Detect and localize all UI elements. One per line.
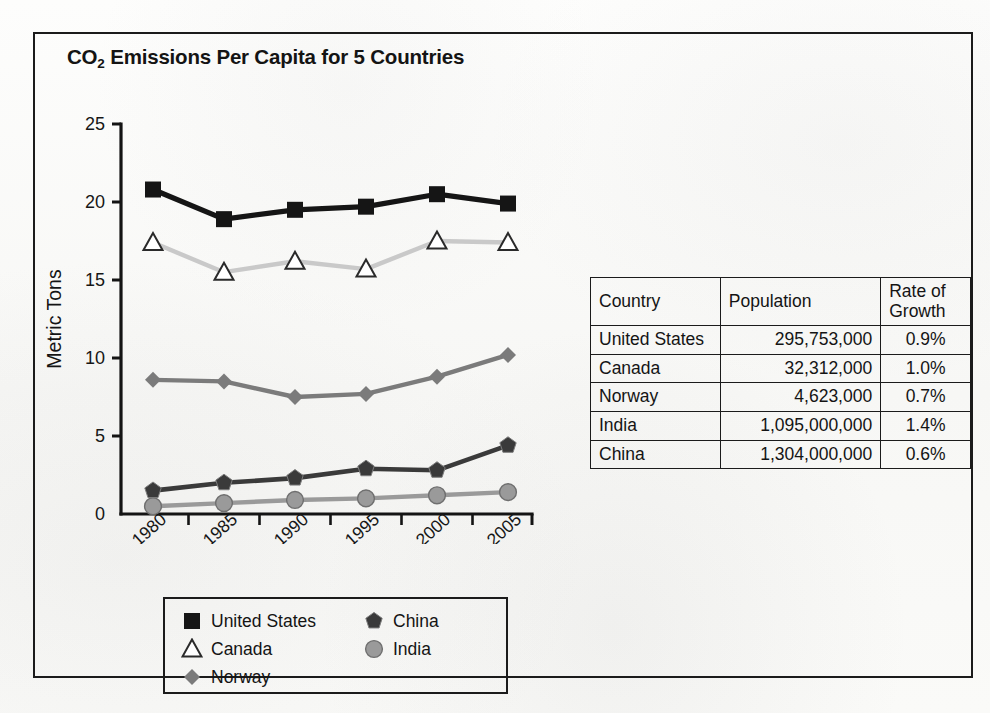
cell-rate-of-growth: 0.9%	[881, 326, 971, 355]
triangle-marker-icon	[179, 638, 205, 660]
cell-rate-of-growth: 1.0%	[881, 354, 971, 383]
data-point-marker	[500, 347, 516, 363]
cell-country: Canada	[591, 354, 721, 383]
column-header-population: Population	[720, 278, 880, 326]
data-point-marker	[500, 437, 516, 453]
legend-item-label: China	[393, 611, 439, 632]
chart-series-group	[144, 182, 518, 515]
pentagon-marker-icon	[361, 610, 387, 632]
series-canada	[144, 232, 518, 280]
legend-item[interactable]: Canada	[179, 636, 316, 662]
circle-marker-icon	[361, 638, 387, 660]
column-header-rate-of-growth: Rate of Growth	[881, 278, 971, 326]
legend-column-left: United StatesCanadaNorway	[179, 608, 316, 692]
cell-population: 32,312,000	[720, 354, 880, 383]
data-point-marker	[145, 372, 161, 388]
cell-country: India	[591, 411, 721, 440]
y-tick-label: 15	[85, 270, 105, 290]
diamond-marker-icon	[179, 666, 205, 688]
legend-item-label: Norway	[211, 667, 270, 688]
data-point-marker	[358, 490, 375, 507]
data-point-marker	[216, 211, 232, 227]
data-point-marker	[500, 196, 516, 212]
y-tick-label: 10	[85, 348, 105, 368]
cell-population: 1,095,000,000	[720, 411, 880, 440]
data-point-marker	[144, 233, 163, 250]
cell-population: 295,753,000	[720, 326, 880, 355]
y-tick-label: 25	[85, 114, 105, 134]
cell-rate-of-growth: 0.7%	[881, 383, 971, 412]
table-body: United States295,753,0000.9%Canada32,312…	[591, 326, 971, 469]
data-point-marker	[429, 487, 446, 504]
chart-legend: United StatesCanadaNorway ChinaIndia	[163, 597, 508, 694]
data-point-marker	[429, 462, 445, 478]
data-point-marker	[429, 369, 445, 385]
legend-item[interactable]: United States	[179, 608, 316, 634]
series-china	[145, 437, 516, 498]
table-row: India1,095,000,0001.4%	[591, 411, 971, 440]
data-point-marker	[183, 640, 202, 657]
series-united-states	[145, 182, 516, 228]
data-point-marker	[358, 199, 374, 215]
data-point-marker	[500, 484, 517, 501]
legend-item[interactable]: India	[361, 636, 439, 662]
legend-item-label: India	[393, 639, 431, 660]
data-point-marker	[184, 613, 200, 629]
chart-axes	[112, 124, 532, 525]
series-norway	[145, 347, 516, 405]
y-tick-label: 20	[85, 192, 105, 212]
data-point-marker	[287, 470, 303, 486]
data-point-marker	[216, 495, 233, 512]
cell-country: United States	[591, 326, 721, 355]
series-line	[153, 445, 508, 490]
cell-rate-of-growth: 0.6%	[881, 440, 971, 469]
line-chart-svg: 0510152025 198019851990199520002005 Metr…	[35, 34, 575, 544]
cell-country: Norway	[591, 383, 721, 412]
legend-item-label: United States	[211, 611, 316, 632]
data-point-marker	[145, 182, 161, 198]
table-head: Country Population Rate of Growth	[591, 278, 971, 326]
cell-population: 4,623,000	[720, 383, 880, 412]
data-point-marker	[358, 386, 374, 402]
plot-area: 0510152025 198019851990199520002005 Metr…	[35, 34, 575, 544]
cell-population: 1,304,000,000	[720, 440, 880, 469]
cell-rate-of-growth: 1.4%	[881, 411, 971, 440]
data-point-marker	[184, 669, 200, 685]
y-tick-label: 5	[95, 426, 105, 446]
y-tick-label: 0	[95, 504, 105, 524]
square-marker-icon	[179, 610, 205, 632]
legend-item[interactable]: Norway	[179, 664, 316, 690]
table-row: United States295,753,0000.9%	[591, 326, 971, 355]
data-point-marker	[366, 641, 383, 658]
scanned-page: CO2 Emissions Per Capita for 5 Countries…	[0, 0, 990, 713]
table-row: Canada32,312,0001.0%	[591, 354, 971, 383]
rate-header-line1: Rate of	[889, 281, 945, 301]
population-table: Country Population Rate of Growth United…	[590, 277, 971, 469]
y-axis-title: Metric Tons	[43, 269, 65, 369]
column-header-country: Country	[591, 278, 721, 326]
data-point-marker	[287, 202, 303, 218]
figure-frame: CO2 Emissions Per Capita for 5 Countries…	[33, 32, 973, 678]
data-point-marker	[366, 612, 382, 628]
rate-header-line2: Growth	[889, 301, 945, 321]
y-tick-labels: 0510152025	[85, 114, 105, 524]
legend-item[interactable]: China	[361, 608, 439, 634]
legend-column-right: ChinaIndia	[361, 608, 439, 664]
series-line	[153, 241, 508, 272]
series-india	[145, 484, 517, 515]
series-line	[153, 492, 508, 506]
data-point-marker	[216, 474, 232, 490]
data-point-marker	[216, 373, 232, 389]
table-row: China1,304,000,0000.6%	[591, 440, 971, 469]
data-point-marker	[287, 389, 303, 405]
data-point-marker	[429, 186, 445, 202]
data-point-marker	[358, 460, 374, 476]
table-row: Norway4,623,0000.7%	[591, 383, 971, 412]
legend-item-label: Canada	[211, 639, 272, 660]
series-line	[153, 190, 508, 220]
series-line	[153, 355, 508, 397]
data-point-marker	[145, 482, 161, 498]
table-header-row: Country Population Rate of Growth	[591, 278, 971, 326]
data-point-marker	[287, 492, 304, 509]
cell-country: China	[591, 440, 721, 469]
